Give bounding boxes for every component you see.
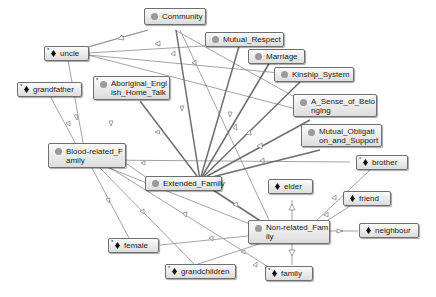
class-icon: [255, 225, 262, 232]
node-label: Mutual_Respect: [223, 35, 281, 44]
node-label: grandfather: [33, 85, 74, 94]
individual-diamond-icon: [366, 226, 371, 235]
individual-diamond-icon: [115, 241, 120, 250]
node-label: friend: [359, 194, 379, 203]
class-icon: [255, 53, 262, 60]
node-label: Community: [162, 12, 202, 21]
individual-elder[interactable]: elder: [268, 179, 313, 194]
individual-uncle[interactable]: * uncle: [44, 46, 89, 61]
node-label: Non-related_Fam ily: [266, 223, 328, 241]
star-marker: *: [111, 239, 113, 245]
class-a-sense-of-belonging[interactable]: A_Sense_of_Belo nging: [293, 94, 377, 117]
individual-diamond-icon: [275, 182, 280, 191]
class-icon: [152, 180, 159, 187]
class-blood-related-family[interactable]: Blood-related_F amily: [48, 143, 126, 168]
class-icon: [308, 129, 315, 136]
star-marker: *: [20, 83, 22, 89]
class-non-related-family[interactable]: Non-related_Fam ily: [248, 220, 330, 244]
individual-diamond-icon: [350, 194, 355, 203]
star-marker: *: [96, 77, 98, 83]
class-community[interactable]: Community: [144, 8, 206, 25]
individual-diamond-icon: [172, 267, 177, 276]
node-label: brother: [372, 158, 397, 167]
star-marker: *: [47, 47, 49, 53]
individual-female[interactable]: * female: [108, 238, 159, 253]
individual-friend[interactable]: friend: [343, 191, 391, 206]
individual-grandfather[interactable]: * grandfather: [17, 82, 82, 97]
class-icon: [212, 36, 219, 43]
node-label: Mutual_Obligati on_and_Support: [319, 127, 378, 145]
node-label: neighbour: [375, 226, 411, 235]
individual-brother[interactable]: * brother: [356, 155, 408, 170]
star-marker: *: [168, 265, 170, 271]
node-label: Aboriginal_Engl ish_Home_Talk: [111, 79, 167, 97]
class-icon: [300, 99, 307, 106]
node-label: A_Sense_of_Belo nging: [311, 97, 375, 115]
node-label: Marriage: [266, 52, 298, 61]
class-mutual-respect[interactable]: Mutual_Respect: [205, 32, 284, 47]
individual-diamond-icon: [24, 85, 29, 94]
class-icon: [100, 81, 107, 88]
class-extended-family[interactable]: Extended_Family: [145, 176, 222, 191]
star-marker: *: [359, 156, 361, 162]
individual-neighbour[interactable]: neighbour: [359, 223, 419, 238]
individual-diamond-icon: [51, 49, 56, 58]
class-marriage[interactable]: Marriage: [248, 49, 305, 64]
individual-diamond-icon: [272, 269, 277, 278]
node-label: uncle: [60, 49, 79, 58]
class-icon: [151, 13, 158, 20]
class-kinship-system[interactable]: Kinship_System: [274, 67, 354, 82]
node-label: family: [281, 269, 302, 278]
class-mutual-obligation-and-support[interactable]: Mutual_Obligati on_and_Support: [301, 124, 382, 147]
node-label: elder: [284, 182, 302, 191]
individual-grandchildren[interactable]: * grandchildren: [165, 264, 236, 279]
node-label: grandchildren: [181, 267, 229, 276]
individual-family[interactable]: * family: [265, 266, 313, 281]
class-aboriginal-english-home-talk[interactable]: * Aboriginal_Engl ish_Home_Talk: [93, 76, 170, 100]
individual-diamond-icon: [363, 158, 368, 167]
node-label: Blood-related_F amily: [66, 147, 123, 165]
star-marker: *: [268, 267, 270, 273]
class-icon: [281, 71, 288, 78]
node-label: Extended_Family: [163, 179, 225, 188]
node-label: female: [124, 241, 148, 250]
node-label: Kinship_System: [292, 70, 349, 79]
class-icon: [55, 148, 62, 155]
